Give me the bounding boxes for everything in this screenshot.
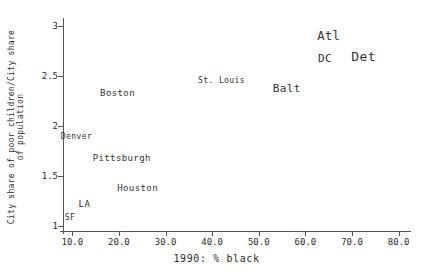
x-tick-label: 50.0 (248, 238, 270, 247)
y-tick-mark (58, 176, 64, 177)
data-point-label: Houston (117, 184, 158, 193)
y-axis-title: City share of poor children/City share o… (7, 27, 25, 227)
x-tick-mark (72, 231, 73, 236)
x-tick-label: 70.0 (341, 238, 363, 247)
y-tick-mark (58, 76, 64, 77)
x-tick-mark (305, 231, 306, 236)
y-tick-mark (58, 126, 64, 127)
data-point-label: SF (65, 214, 75, 222)
y-tick-mark (58, 26, 64, 27)
data-point-label: Pittsburgh (93, 154, 151, 163)
x-tick-mark (166, 231, 167, 236)
x-axis-line (60, 231, 411, 232)
data-point-label: Denver (61, 133, 92, 141)
x-tick-mark (399, 231, 400, 236)
x-tick-label: 20.0 (108, 238, 130, 247)
y-tick-label: 2 (53, 122, 58, 131)
y-tick-mark (58, 226, 64, 227)
plot-area: 11.522.53 10.020.030.040.050.060.070.080… (63, 21, 408, 231)
x-tick-label: 10.0 (61, 238, 83, 247)
data-point-label: St. Louis (198, 77, 245, 85)
y-tick-label: 1.5 (42, 172, 58, 181)
data-point-label: DC (318, 53, 332, 64)
data-point-label: Det (351, 50, 376, 63)
data-point-label: Balt (273, 83, 301, 94)
x-tick-label: 30.0 (155, 238, 177, 247)
y-tick-label: 2.5 (42, 72, 58, 81)
data-point-label: Boston (100, 89, 135, 98)
x-axis-title: 1990: % black (0, 253, 433, 264)
data-point-label: Atl (317, 30, 340, 42)
data-point-label: LA (79, 200, 91, 209)
x-tick-mark (259, 231, 260, 236)
x-tick-mark (119, 231, 120, 236)
y-tick-label: 1 (53, 222, 58, 231)
x-tick-label: 60.0 (295, 238, 317, 247)
y-tick-label: 3 (53, 22, 58, 31)
x-tick-mark (352, 231, 353, 236)
scatter-plot-figure: 11.522.53 10.020.030.040.050.060.070.080… (0, 0, 433, 276)
x-tick-mark (212, 231, 213, 236)
x-tick-label: 40.0 (201, 238, 223, 247)
x-tick-label: 80.0 (388, 238, 410, 247)
